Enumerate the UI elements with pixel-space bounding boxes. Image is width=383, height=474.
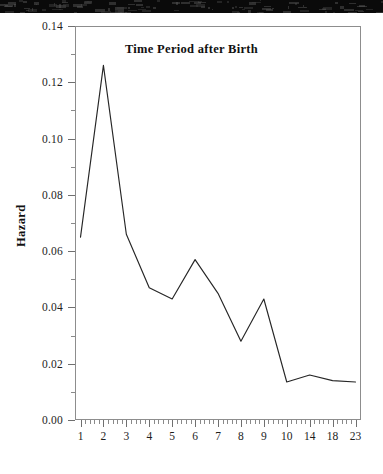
x-minor-tick: [268, 420, 269, 424]
x-minor-tick: [209, 420, 210, 424]
y-major-tick: [68, 139, 75, 140]
x-tick-label: 10: [281, 430, 293, 442]
x-minor-tick: [99, 420, 100, 424]
x-major-tick: [149, 420, 150, 427]
x-tick-label: 8: [238, 430, 244, 442]
x-minor-tick: [232, 420, 233, 424]
x-minor-tick: [246, 420, 247, 424]
x-minor-tick: [323, 420, 324, 424]
x-minor-tick: [191, 420, 192, 424]
x-minor-tick: [204, 420, 205, 424]
x-major-tick: [103, 420, 104, 427]
x-minor-tick: [273, 420, 274, 424]
x-tick-label: 9: [261, 430, 267, 442]
x-minor-tick: [259, 420, 260, 424]
y-tick-label: 0.06: [42, 245, 63, 257]
y-tick-label: 0.10: [42, 133, 63, 145]
y-tick-label: 0.14: [42, 20, 63, 32]
x-minor-tick: [131, 420, 132, 424]
x-minor-tick: [163, 420, 164, 424]
x-major-tick: [195, 420, 196, 427]
y-minor-tick: [71, 110, 75, 111]
x-minor-tick: [351, 420, 352, 424]
x-minor-tick: [337, 420, 338, 424]
x-minor-tick: [296, 420, 297, 424]
x-major-tick: [172, 420, 173, 427]
hazard-line-path: [81, 65, 356, 382]
x-tick-label: 14: [304, 430, 316, 442]
x-tick-label: 4: [146, 430, 152, 442]
x-minor-tick: [342, 420, 343, 424]
x-minor-tick: [200, 420, 201, 424]
x-minor-tick: [305, 420, 306, 424]
x-minor-tick: [158, 420, 159, 424]
y-minor-tick: [71, 223, 75, 224]
y-major-tick: [68, 251, 75, 252]
x-minor-tick: [301, 420, 302, 424]
x-major-tick: [81, 420, 82, 427]
x-tick-label: 1: [78, 430, 84, 442]
chart-figure: 0.000.020.040.060.080.100.120.14 Hazard …: [0, 13, 383, 474]
x-minor-tick: [136, 420, 137, 424]
y-minor-tick: [71, 167, 75, 168]
x-minor-tick: [94, 420, 95, 424]
x-tick-label: 7: [215, 430, 221, 442]
x-major-tick: [310, 420, 311, 427]
y-tick-label: 0.08: [42, 189, 63, 201]
x-minor-tick: [168, 420, 169, 424]
x-major-tick: [218, 420, 219, 427]
x-tick-label: 18: [327, 430, 339, 442]
x-minor-tick: [319, 420, 320, 424]
y-minor-tick: [71, 336, 75, 337]
x-minor-tick: [154, 420, 155, 424]
figure-page: 0.000.020.040.060.080.100.120.14 Hazard …: [0, 0, 383, 474]
x-minor-tick: [140, 420, 141, 424]
y-major-tick: [68, 26, 75, 27]
y-major-tick: [68, 82, 75, 83]
x-minor-tick: [250, 420, 251, 424]
x-minor-tick: [223, 420, 224, 424]
x-minor-tick: [328, 420, 329, 424]
x-minor-tick: [108, 420, 109, 424]
x-tick-label: 3: [123, 430, 129, 442]
x-minor-tick: [122, 420, 123, 424]
x-major-tick: [356, 420, 357, 427]
x-minor-tick: [85, 420, 86, 424]
plot-area: [75, 26, 361, 420]
x-minor-tick: [291, 420, 292, 424]
x-minor-tick: [113, 420, 114, 424]
y-tick-label: 0.04: [42, 301, 63, 313]
x-axis-title: Time Period after Birth: [0, 42, 383, 57]
x-minor-tick: [145, 420, 146, 424]
y-major-tick: [68, 195, 75, 196]
x-minor-tick: [282, 420, 283, 424]
x-minor-tick: [236, 420, 237, 424]
x-major-tick: [333, 420, 334, 427]
x-minor-tick: [177, 420, 178, 424]
y-minor-tick: [71, 392, 75, 393]
x-tick-label: 23: [350, 430, 362, 442]
y-minor-tick: [71, 279, 75, 280]
x-minor-tick: [90, 420, 91, 424]
hazard-line-series: [75, 26, 361, 420]
x-major-tick: [287, 420, 288, 427]
x-minor-tick: [186, 420, 187, 424]
x-tick-label: 2: [101, 430, 107, 442]
x-major-tick: [264, 420, 265, 427]
x-axis: 12345678910141823: [0, 420, 383, 474]
y-tick-label: 0.02: [42, 358, 63, 370]
x-minor-tick: [117, 420, 118, 424]
x-minor-tick: [346, 420, 347, 424]
x-tick-label: 6: [192, 430, 198, 442]
x-minor-tick: [227, 420, 228, 424]
x-minor-tick: [278, 420, 279, 424]
x-minor-tick: [213, 420, 214, 424]
y-tick-label: 0.12: [42, 76, 63, 88]
x-tick-label: 5: [169, 430, 175, 442]
y-major-tick: [68, 364, 75, 365]
x-minor-tick: [255, 420, 256, 424]
scan-artifact-bar: [0, 0, 383, 13]
x-minor-tick: [181, 420, 182, 424]
x-major-tick: [241, 420, 242, 427]
y-major-tick: [68, 307, 75, 308]
